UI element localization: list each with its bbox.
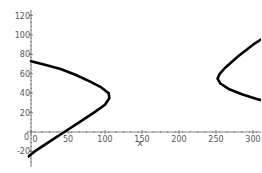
y-tick-label: 60 bbox=[20, 70, 30, 79]
x-tick-label: 50 bbox=[63, 135, 73, 144]
origin-label: 0 bbox=[24, 133, 29, 142]
x-tick-label: 200 bbox=[171, 135, 186, 144]
y-tick-label: 20 bbox=[20, 109, 30, 118]
x-tick-label: 300 bbox=[245, 135, 260, 144]
y-tick-label: 40 bbox=[20, 89, 30, 98]
y-tick-label: 100 bbox=[15, 31, 30, 40]
chart: 0501001502002503000-2020406080100120x bbox=[0, 0, 261, 173]
y-tick-label: -20 bbox=[17, 147, 30, 156]
x-axis-label: x bbox=[137, 138, 143, 148]
x-tick-label: 100 bbox=[97, 135, 112, 144]
tick-labels: 0501001502002503000-2020406080100120x bbox=[15, 12, 261, 157]
y-tick-label: 80 bbox=[20, 50, 30, 59]
x-tick-label: 0 bbox=[32, 135, 37, 144]
series-right-branch bbox=[218, 25, 262, 105]
x-tick-label: 250 bbox=[208, 135, 223, 144]
y-tick-label: 120 bbox=[15, 12, 30, 21]
